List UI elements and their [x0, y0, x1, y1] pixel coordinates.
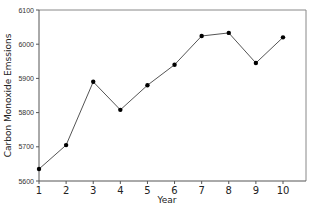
y-tick-label: 6000: [18, 41, 34, 48]
y-tick-label: 5800: [18, 109, 34, 116]
x-tick-label: 8: [226, 185, 232, 196]
data-point: [145, 83, 149, 87]
data-point: [91, 80, 95, 84]
data-point: [172, 63, 176, 67]
x-tick-label: 1: [36, 185, 42, 196]
data-point: [118, 108, 122, 112]
x-tick-label: 9: [253, 185, 259, 196]
x-tick-label: 7: [198, 185, 204, 196]
data-point: [64, 143, 68, 147]
x-tick-label: 5: [144, 185, 150, 196]
data-line: [39, 33, 283, 169]
data-point: [199, 34, 203, 38]
data-point: [281, 35, 285, 39]
y-axis-title: Carbon Monoxide Emssions: [3, 33, 13, 157]
y-tick-label: 5600: [18, 178, 34, 185]
chart-canvas: 56005700580059006000610012345678910YearC…: [0, 0, 312, 208]
data-point: [227, 31, 231, 35]
y-tick-label: 6100: [18, 7, 34, 14]
x-tick-label: 2: [63, 185, 69, 196]
y-tick-label: 5900: [18, 75, 34, 82]
data-point: [254, 61, 258, 65]
x-axis-title: Year: [156, 195, 176, 205]
y-tick-label: 5700: [18, 143, 34, 150]
x-tick-label: 3: [90, 185, 96, 196]
line-chart: 56005700580059006000610012345678910YearC…: [0, 0, 312, 208]
x-tick-label: 10: [277, 185, 290, 196]
x-tick-label: 4: [117, 185, 123, 196]
data-point: [37, 167, 41, 171]
